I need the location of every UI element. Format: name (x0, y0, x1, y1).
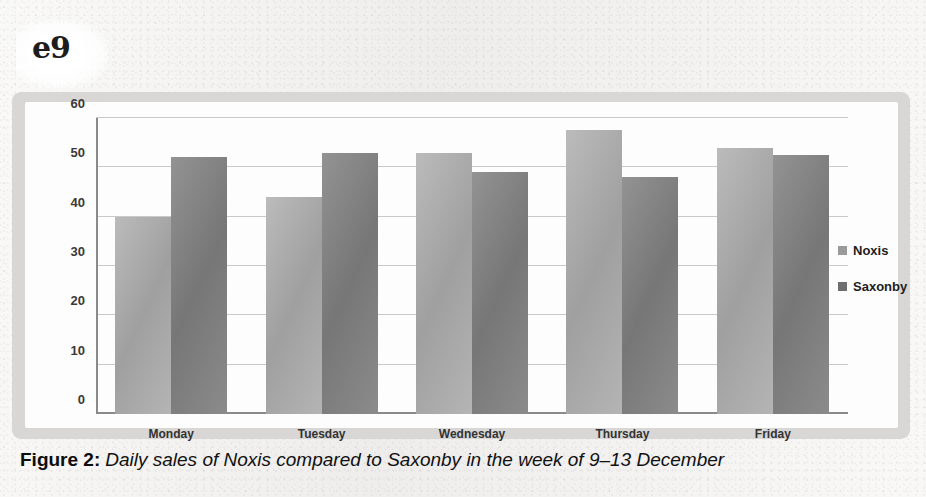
bar-saxonby-thursday (622, 177, 678, 414)
bar-saxonby-tuesday (322, 153, 378, 414)
figure-caption: Figure 2:Daily sales of Noxis compared t… (20, 449, 910, 471)
legend-label: Noxis (853, 243, 888, 258)
bar-group: Friday (698, 118, 848, 414)
chart-plot-card: 0102030405060 MondayTuesdayWednesdayThur… (25, 102, 898, 428)
legend-item-noxis: Noxis (838, 243, 907, 258)
bar-noxis-thursday (566, 130, 622, 414)
y-axis-tick-label: 40 (71, 194, 85, 209)
bar-groups: MondayTuesdayWednesdayThursdayFriday (96, 118, 848, 414)
x-axis-tick-label: Tuesday (298, 427, 346, 441)
y-axis-tick-label: 10 (71, 342, 85, 357)
y-axis-tick-label: 20 (71, 293, 85, 308)
figure-caption-text: Daily sales of Noxis compared to Saxonby… (105, 449, 724, 470)
legend-swatch-icon (838, 246, 847, 255)
bar-noxis-friday (717, 148, 773, 414)
legend-label: Saxonby (853, 279, 907, 294)
bar-group: Tuesday (246, 118, 396, 414)
bar-saxonby-monday (171, 157, 227, 414)
legend-swatch-icon (838, 282, 847, 291)
chart-frame: 0102030405060 MondayTuesdayWednesdayThur… (12, 92, 910, 439)
x-axis-tick-label: Thursday (595, 427, 649, 441)
x-axis-tick-label: Wednesday (439, 427, 505, 441)
bar-group: Monday (96, 118, 246, 414)
legend-item-saxonby: Saxonby (838, 279, 907, 294)
bar-noxis-wednesday (416, 153, 472, 414)
bar-saxonby-friday (773, 155, 829, 414)
figure-caption-label: Figure 2: (20, 449, 100, 470)
x-axis-tick-label: Friday (755, 427, 791, 441)
scanned-page: e9 0102030405060 MondayTuesdayWednesdayT… (0, 0, 926, 497)
x-axis-tick-label: Monday (149, 427, 194, 441)
chart-legend: NoxisSaxonby (838, 243, 907, 315)
bar-group: Wednesday (397, 118, 547, 414)
y-axis-tick-label: 0 (78, 392, 85, 407)
bar-saxonby-wednesday (472, 172, 528, 414)
y-axis-tick-label: 30 (71, 244, 85, 259)
page-marker-label: e9 (32, 30, 70, 65)
bar-noxis-tuesday (266, 197, 322, 414)
plot-area: 0102030405060 MondayTuesdayWednesdayThur… (96, 118, 848, 414)
y-axis-tick-label: 60 (71, 96, 85, 111)
page-marker: e9 (26, 26, 98, 82)
bar-group: Thursday (547, 118, 697, 414)
y-axis-tick-label: 50 (71, 145, 85, 160)
bar-noxis-monday (115, 217, 171, 414)
